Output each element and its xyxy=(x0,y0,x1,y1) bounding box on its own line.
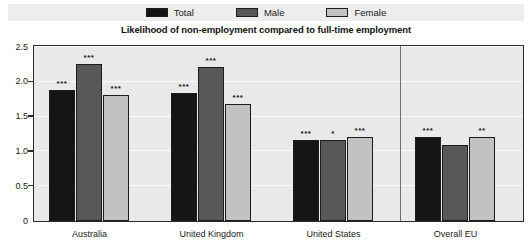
x-category-label: Australia xyxy=(72,229,107,239)
bar-total-1 xyxy=(171,93,197,221)
legend-label-female: Female xyxy=(354,8,386,18)
bar-total-2 xyxy=(293,140,319,221)
chart-legend: Total Male Female xyxy=(8,4,524,21)
chart-title: Likelihood of non-employment compared to… xyxy=(0,24,532,35)
legend-label-total: Total xyxy=(174,8,194,18)
significance-marker: *** xyxy=(103,85,129,93)
significance-marker: ** xyxy=(469,127,495,135)
y-tick-label: 2.0 xyxy=(0,76,28,86)
significance-marker: *** xyxy=(293,130,319,138)
bar-male-2 xyxy=(320,140,346,221)
bar-female-1 xyxy=(225,104,251,221)
group-separator xyxy=(400,46,401,221)
bar-male-0 xyxy=(76,64,102,221)
bar-total-3 xyxy=(415,137,441,221)
y-tick-label: 0 xyxy=(0,216,28,226)
bar-female-2 xyxy=(347,137,373,221)
y-tick-label: 0.5 xyxy=(0,181,28,191)
bar-male-3 xyxy=(442,145,468,221)
legend-swatch-total xyxy=(146,8,168,17)
significance-marker: * xyxy=(320,130,346,138)
bar-male-1 xyxy=(198,67,224,221)
legend-item-female: Female xyxy=(326,8,386,18)
significance-marker: *** xyxy=(171,83,197,91)
chart-figure: Total Male Female Likelihood of non-empl… xyxy=(0,0,532,250)
x-category-label: United States xyxy=(306,229,360,239)
bar-female-3 xyxy=(469,137,495,221)
bar-total-0 xyxy=(49,90,75,221)
legend-item-total: Total xyxy=(146,8,194,18)
y-tick-label: 1.5 xyxy=(0,111,28,121)
y-tick-label: 2.5 xyxy=(0,42,28,52)
legend-swatch-female xyxy=(326,8,348,17)
legend-label-male: Male xyxy=(264,8,285,18)
significance-marker: *** xyxy=(415,127,441,135)
significance-marker: *** xyxy=(49,80,75,88)
x-category-label: United Kingdom xyxy=(179,229,243,239)
legend-item-male: Male xyxy=(236,8,285,18)
bars-layer: ****************************** xyxy=(34,46,523,221)
significance-marker: *** xyxy=(198,57,224,65)
legend-swatch-male xyxy=(236,8,258,17)
significance-marker: *** xyxy=(76,54,102,62)
significance-marker: *** xyxy=(225,94,251,102)
plot-area: ****************************** xyxy=(33,45,524,222)
significance-marker: *** xyxy=(347,127,373,135)
bar-female-0 xyxy=(103,95,129,221)
x-category-label: Overall EU xyxy=(434,229,478,239)
y-tick-label: 1.0 xyxy=(0,146,28,156)
